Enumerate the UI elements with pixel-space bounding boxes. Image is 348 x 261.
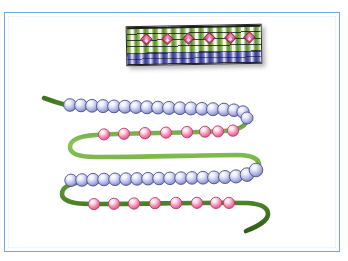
woven-band-weave bbox=[126, 24, 263, 67]
woven-band bbox=[126, 24, 263, 67]
image-title: Beaded cord illustration bbox=[0, 0, 1, 1]
screenshot-root: Beaded cord illustration bbox=[0, 0, 348, 261]
